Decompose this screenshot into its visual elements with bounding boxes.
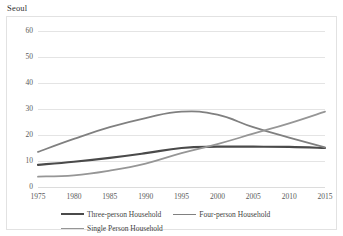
legend-swatch-icon xyxy=(61,213,84,215)
y-axis-tick-label: 10 xyxy=(26,157,34,165)
chart-figure: Seoul 0102030405060 19751980198519901995… xyxy=(0,0,343,236)
legend-item[interactable]: Three-person Household xyxy=(61,210,161,219)
y-axis-tick-label: 50 xyxy=(26,53,34,61)
x-axis-tick-label: 1995 xyxy=(174,193,189,201)
y-axis-tick-label: 40 xyxy=(26,79,34,87)
series-line xyxy=(38,147,325,165)
gridline xyxy=(38,187,325,188)
y-axis-tick-label: 30 xyxy=(26,105,34,113)
series-lines xyxy=(38,31,325,187)
x-axis-tick-label: 2010 xyxy=(282,193,297,201)
x-axis-tick-label: 1985 xyxy=(102,193,117,201)
x-axis-tick-label: 1990 xyxy=(138,193,153,201)
y-axis-tick-label: 0 xyxy=(29,183,33,191)
legend-label: Single Person Household xyxy=(87,224,163,233)
x-axis-tick-label: 1980 xyxy=(66,193,81,201)
x-axis-tick-label: 1975 xyxy=(31,193,46,201)
y-axis-tick-label: 20 xyxy=(26,131,34,139)
legend-item[interactable]: Single Person Household xyxy=(61,224,163,233)
y-axis-tick-label: 60 xyxy=(26,27,34,35)
legend-row: Single Person Household xyxy=(61,221,331,235)
x-axis-tick-label: 2005 xyxy=(246,193,261,201)
chart-container: 0102030405060 19751980198519901995200020… xyxy=(6,16,337,230)
legend-row: Three-person HouseholdFour-person Househ… xyxy=(61,207,331,221)
legend-label: Three-person Household xyxy=(87,210,161,219)
legend-swatch-icon xyxy=(61,228,84,229)
x-axis-tick-label: 2000 xyxy=(210,193,225,201)
x-axis-tick-label: 2015 xyxy=(318,193,333,201)
series-line xyxy=(38,112,325,177)
page-title: Seoul xyxy=(7,3,27,13)
chart-legend: Three-person HouseholdFour-person Househ… xyxy=(61,207,331,235)
legend-swatch-icon xyxy=(173,214,196,215)
legend-item[interactable]: Four-person Household xyxy=(173,210,270,219)
plot-area: 0102030405060 19751980198519901995200020… xyxy=(38,31,325,187)
legend-label: Four-person Household xyxy=(199,210,270,219)
